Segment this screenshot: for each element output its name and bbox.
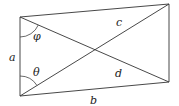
label-a: a (9, 51, 16, 64)
side-top (20, 4, 169, 17)
parallelogram-diagram: a b c d φ θ (0, 0, 179, 106)
label-c: c (116, 16, 122, 29)
label-d: d (115, 67, 122, 80)
diagonal-c (20, 4, 169, 96)
label-phi: φ (33, 30, 41, 43)
label-theta: θ (33, 66, 40, 79)
label-b: b (90, 94, 97, 106)
diagonal-d (20, 17, 169, 82)
